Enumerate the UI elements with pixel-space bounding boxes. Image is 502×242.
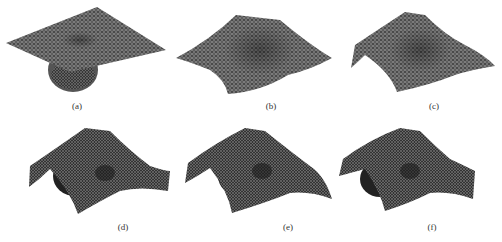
panel-label-c: (c) xyxy=(419,101,449,111)
panel-b: (b) xyxy=(170,0,340,121)
panel-label-e: (e) xyxy=(273,222,303,232)
panel-f: (f) xyxy=(335,121,502,242)
panel-label-f: (f) xyxy=(417,222,447,232)
panel-label-a: (a) xyxy=(62,101,92,111)
panel-a: (a) xyxy=(0,0,170,121)
panel-label-b: (b) xyxy=(256,101,286,111)
panel-d: (d) xyxy=(0,121,170,242)
panel-e: (e) xyxy=(170,121,340,242)
cloth-mesh-image-e xyxy=(170,121,340,242)
panel-c: (c) xyxy=(335,0,502,121)
cloth-mesh-image-b xyxy=(170,0,340,121)
cloth-mesh-image-d xyxy=(0,121,170,242)
panel-label-d: (d) xyxy=(108,222,138,232)
